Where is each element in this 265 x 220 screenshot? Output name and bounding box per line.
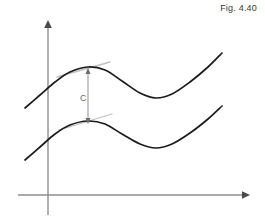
constant-offset-annotation: C — [80, 68, 91, 124]
figure-container: Fig. 4.40 C — [0, 0, 265, 220]
y-axis-arrow-icon — [44, 20, 52, 28]
x-axis-arrow-icon — [242, 191, 250, 199]
lower-curve — [25, 106, 222, 160]
upper-curve — [25, 53, 222, 108]
axes-group — [18, 20, 250, 215]
curves-group — [25, 53, 222, 160]
offset-label: C — [80, 93, 87, 103]
plot-canvas: C — [0, 0, 265, 220]
